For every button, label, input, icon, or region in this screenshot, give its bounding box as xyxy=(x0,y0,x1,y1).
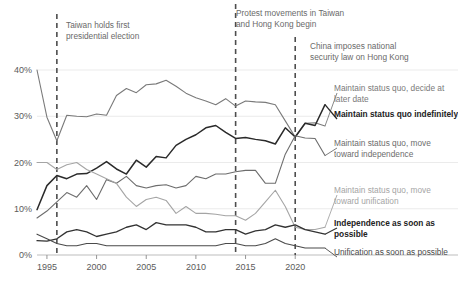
x-tick-2015: 2015 xyxy=(236,262,256,272)
annotation-text-national-security-law: China imposes national security law on H… xyxy=(310,41,409,63)
y-tick-30%: 30% xyxy=(14,111,32,121)
legend-label-1: Maintain status quo indefinitely xyxy=(334,109,458,135)
legend-label-text-5: Unification as soon as possible xyxy=(334,247,458,258)
series-line-3 xyxy=(37,163,325,230)
legend-label-0: Maintain status quo, decide at later dat… xyxy=(334,83,458,109)
x-tick-2005: 2005 xyxy=(136,262,156,272)
x-tick-2010: 2010 xyxy=(186,262,206,272)
x-tick-2020: 2020 xyxy=(285,262,305,272)
series-line-2 xyxy=(37,136,325,218)
annotation-text-protest-movements: Protest movements in Taiwan and Hong Kon… xyxy=(236,8,344,30)
series-line-4 xyxy=(37,223,325,242)
legend-label-text-4: Independence as soon as possible xyxy=(334,218,458,239)
y-axis-labels: 0%10%20%30%40% xyxy=(14,65,32,260)
y-tick-10%: 10% xyxy=(14,204,32,214)
legend-label-text-2: Maintain status quo, move toward indepen… xyxy=(334,138,458,159)
x-axis-labels: 199520002005201020152020 xyxy=(37,255,305,272)
legend-label-2: Maintain status quo, move toward indepen… xyxy=(334,138,458,164)
y-tick-40%: 40% xyxy=(14,65,32,75)
series-line-5 xyxy=(37,234,325,248)
legend-label-text-0: Maintain status quo, decide at later dat… xyxy=(334,83,458,104)
legend-label-5: Unification as soon as possible xyxy=(334,247,458,273)
series-group xyxy=(37,70,325,248)
x-tick-2000: 2000 xyxy=(87,262,107,272)
legend-label-text-1: Maintain status quo indefinitely xyxy=(334,109,458,120)
legend-label-text-3: Maintain status quo, move toward unifica… xyxy=(334,185,458,206)
chart-container: 0%10%20%30%40%199520002005201020152020Ma… xyxy=(0,0,458,287)
legend-label-4: Independence as soon as possible xyxy=(334,218,458,244)
annotation-text-taiwan-first-election: Taiwan holds first presidential election xyxy=(66,20,139,42)
legend-label-3: Maintain status quo, move toward unifica… xyxy=(334,185,458,211)
x-tick-1995: 1995 xyxy=(37,262,57,272)
y-tick-0%: 0% xyxy=(19,250,32,260)
y-tick-20%: 20% xyxy=(14,158,32,168)
series-line-0 xyxy=(37,70,325,141)
